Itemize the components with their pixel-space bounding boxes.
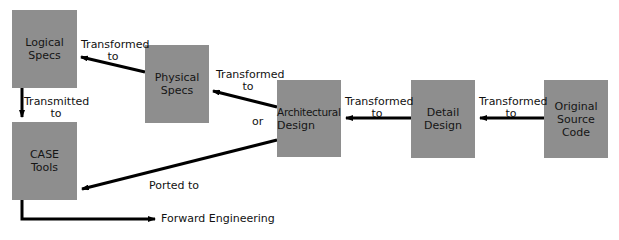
node-detail-design: DetailDesign	[411, 80, 475, 158]
node-label: Specs	[155, 84, 200, 97]
edge-label-arch-to-physical: Transformed to	[216, 69, 280, 93]
edge-label-text: to	[505, 107, 516, 120]
node-label: Original	[554, 100, 597, 113]
edge-label-text: to	[107, 50, 118, 63]
node-label: Design	[277, 119, 341, 132]
node-physical-specs: PhysicalSpecs	[145, 45, 209, 123]
node-label: Code	[554, 126, 597, 139]
node-label: Source	[554, 113, 597, 126]
edge-label-text: to	[371, 107, 382, 120]
node-label: Specs	[25, 49, 64, 62]
node-original-source-code: OriginalSourceCode	[544, 80, 608, 158]
node-label: Architectural	[277, 106, 341, 119]
edge-label-forward-engineering: Forward Engineering	[161, 213, 275, 225]
node-label: CASE	[30, 148, 59, 161]
edge-label-source-to-detail: Transformed to	[479, 96, 543, 120]
edge-label-or: or	[252, 116, 263, 128]
edge-label-physical-to-logical: Transformed to	[81, 39, 145, 63]
edge-label-text: to	[50, 107, 61, 120]
edge-label-ported-to: Ported to	[149, 180, 199, 192]
edge-label-text: to	[242, 80, 253, 93]
edge-label-logical-to-case: Transmitted to	[24, 96, 88, 120]
node-label: Physical	[155, 71, 200, 84]
node-label: Design	[424, 119, 462, 132]
node-architectural-design: ArchitecturalDesign	[277, 80, 341, 157]
node-case-tools: CASETools	[12, 122, 77, 200]
node-logical-specs: LogicalSpecs	[12, 10, 77, 88]
node-label: Detail	[424, 106, 462, 119]
node-label: Tools	[30, 161, 59, 174]
node-label: Logical	[25, 36, 64, 49]
edge-label-detail-to-arch: Transformed to	[345, 96, 409, 120]
